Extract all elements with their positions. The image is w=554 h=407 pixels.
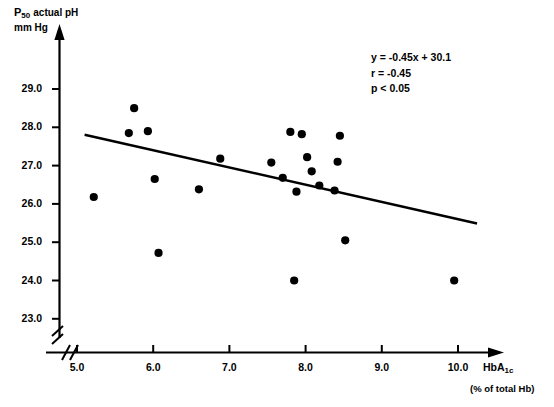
x-axis-label-base: HbA bbox=[483, 361, 505, 373]
y-tick-label: 28.0 bbox=[8, 120, 42, 132]
data-point bbox=[130, 104, 138, 112]
data-points bbox=[90, 104, 459, 285]
correlation-text: r = -0.45 bbox=[371, 66, 451, 82]
x-tick-label: 10.0 bbox=[438, 361, 478, 373]
x-tick-label: 9.0 bbox=[362, 361, 402, 373]
y-tick-label: 23.0 bbox=[8, 312, 42, 324]
x-tick-label: 7.0 bbox=[209, 361, 249, 373]
data-point bbox=[298, 130, 306, 138]
pvalue-text: p < 0.05 bbox=[371, 81, 451, 97]
y-tick-label: 24.0 bbox=[8, 274, 42, 286]
y-tick-label: 26.0 bbox=[8, 197, 42, 209]
y-tick-label: 27.0 bbox=[8, 159, 42, 171]
data-point bbox=[308, 167, 316, 175]
x-tick-label: 5.0 bbox=[57, 361, 97, 373]
x-tick-label: 8.0 bbox=[286, 361, 326, 373]
data-point bbox=[450, 276, 458, 284]
x-axis-label: HbA1c bbox=[483, 361, 514, 375]
y-axis-arrowhead bbox=[54, 24, 64, 40]
data-point bbox=[151, 175, 159, 183]
data-point bbox=[330, 186, 338, 194]
data-point bbox=[90, 193, 98, 201]
x-axis-label-subscript: 1c bbox=[505, 366, 514, 375]
regression-equation-text: y = -0.45x + 30.1 bbox=[371, 50, 451, 66]
x-axis-arrowhead bbox=[488, 347, 504, 357]
data-point bbox=[315, 181, 323, 189]
data-point bbox=[279, 174, 287, 182]
data-point bbox=[267, 158, 275, 166]
data-point bbox=[154, 249, 162, 257]
axis-break-marks bbox=[52, 326, 78, 360]
data-point bbox=[336, 132, 344, 140]
y-tick-label: 29.0 bbox=[8, 82, 42, 94]
y-tick-label: 25.0 bbox=[8, 235, 42, 247]
data-point bbox=[303, 153, 311, 161]
plot-canvas bbox=[0, 0, 554, 407]
scatter-plot-figure: P50 actual pH mm Hg HbA1c (% of total Hb… bbox=[0, 0, 554, 407]
x-tick-label: 6.0 bbox=[133, 361, 173, 373]
statistics-annotation: y = -0.45x + 30.1 r = -0.45 p < 0.05 bbox=[371, 50, 451, 97]
data-point bbox=[334, 158, 342, 166]
data-point bbox=[195, 185, 203, 193]
data-point bbox=[292, 188, 300, 196]
data-point bbox=[341, 236, 349, 244]
x-axis-label-note: (% of total Hb) bbox=[470, 383, 534, 394]
data-point bbox=[144, 127, 152, 135]
y-axis-label-subscript: 50 bbox=[21, 11, 30, 20]
y-axis-label-line1: P50 actual pH bbox=[14, 6, 78, 20]
y-axis-label-units: mm Hg bbox=[14, 22, 48, 33]
data-point bbox=[290, 276, 298, 284]
data-point bbox=[216, 155, 224, 163]
data-point bbox=[125, 129, 133, 137]
data-point bbox=[286, 128, 294, 136]
y-axis-label-rest: actual pH bbox=[33, 7, 78, 18]
